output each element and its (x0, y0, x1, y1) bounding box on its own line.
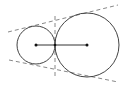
upper-external-tangent (8, 5, 118, 32)
large-circle-center-point (86, 44, 89, 47)
tangent-circles-diagram (0, 0, 128, 89)
small-circle-center-point (35, 44, 38, 47)
tangency-point (54, 44, 57, 47)
lower-external-tangent (9, 60, 118, 82)
